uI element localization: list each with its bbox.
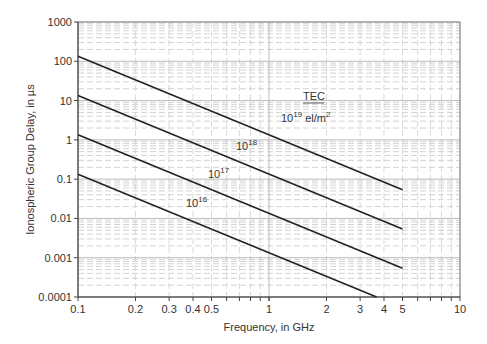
x-tick-label: 0.1 [70, 303, 85, 315]
y-tick-label: 0.0001 [38, 291, 72, 303]
y-tick-label: 100 [54, 55, 72, 67]
series-label: 1018 [236, 138, 258, 152]
series-line [78, 96, 403, 229]
y-tick-label: 1000 [48, 16, 72, 28]
x-tick-label: 3 [357, 303, 363, 315]
x-tick-label: 2 [323, 303, 329, 315]
x-axis-label: Frequency, in GHz [224, 321, 315, 333]
y-tick-label: 0.001 [44, 252, 72, 264]
x-tick-label: 5 [399, 303, 405, 315]
x-tick-label: 0.5 [204, 303, 219, 315]
x-tick-label: 10 [454, 303, 466, 315]
plot-area: 10001001010.10.010.0010.00010.10.20.30.4… [0, 0, 487, 344]
x-tick-label: 0.4 [185, 303, 200, 315]
x-tick-label: 0.2 [128, 303, 143, 315]
y-axis-label: Ionospheric Group Delay, in µs [24, 84, 36, 235]
chart: 10001001010.10.010.0010.00010.10.20.30.4… [0, 0, 487, 344]
series-label: 1019 el/m2 [281, 110, 331, 124]
series-line [78, 56, 403, 189]
y-tick-label: 10 [60, 95, 72, 107]
x-tick-label: 4 [381, 303, 387, 315]
y-tick-label: 0.01 [51, 212, 72, 224]
x-tick-label: 1 [266, 303, 272, 315]
series-line [78, 135, 403, 268]
y-tick-label: 1 [66, 134, 72, 146]
y-tick-label: 0.1 [57, 173, 72, 185]
legend-title: TEC [303, 90, 325, 102]
x-tick-label: 0.3 [161, 303, 176, 315]
